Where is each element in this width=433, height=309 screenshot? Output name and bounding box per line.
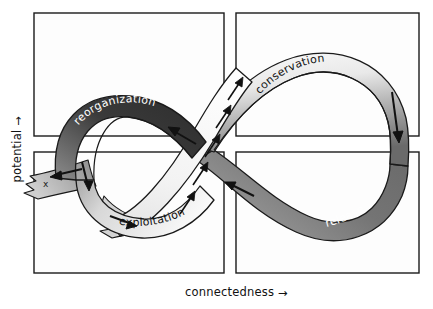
y-axis-label-text: potential [10, 130, 24, 183]
figure-root: reorganization conservation release expl… [0, 0, 433, 309]
x-axis-label: connectedness → [185, 285, 288, 300]
x-axis-arrow-icon: → [278, 286, 288, 300]
y-axis-label: potential → [10, 116, 25, 183]
adaptive-cycle-canvas: reorganization conservation release expl… [0, 0, 433, 309]
y-axis-arrow-icon: → [11, 116, 25, 126]
x-axis-label-text: connectedness [185, 285, 274, 299]
exit-marker-label: x [43, 179, 49, 189]
